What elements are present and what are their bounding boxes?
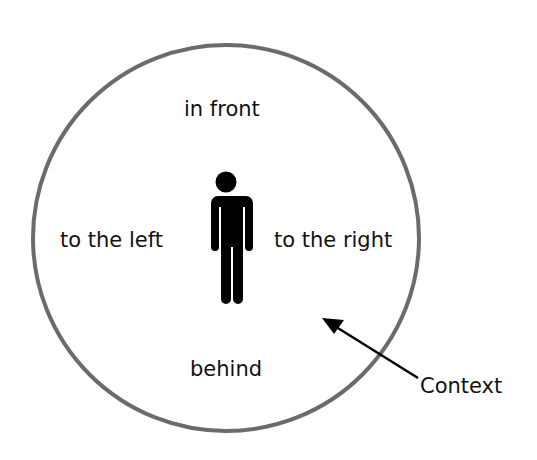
label-to-the-left: to the left — [60, 230, 163, 251]
label-context: Context — [420, 376, 502, 397]
label-in-front: in front — [184, 99, 260, 120]
label-to-the-right: to the right — [274, 230, 392, 251]
label-behind: behind — [190, 359, 262, 380]
person-icon — [206, 172, 253, 305]
